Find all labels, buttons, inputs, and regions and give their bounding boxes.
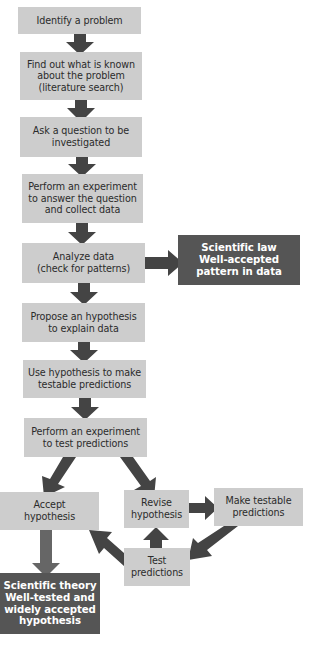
result-scientific-theory: Scientific theory Well-tested and widely… bbox=[0, 573, 100, 634]
step-label: Accept hypothesis bbox=[24, 499, 75, 522]
step-label: Ask a question to be investigated bbox=[33, 125, 129, 148]
arrow-up-icon bbox=[143, 527, 169, 548]
step-label: Use hypothesis to make testable predicti… bbox=[28, 367, 141, 390]
arrow-down-icon bbox=[68, 223, 96, 245]
arrow-down-left-icon bbox=[188, 526, 238, 560]
arrow-up-left-icon bbox=[89, 530, 124, 566]
step-test-predictions: Test predictions bbox=[124, 548, 190, 586]
step-label: Revise hypothesis bbox=[131, 497, 182, 520]
step-label: Perform an experiment to test prediction… bbox=[31, 426, 140, 449]
step-label: Find out what is known about the problem… bbox=[27, 59, 135, 94]
step-label: Perform an experiment to answer the ques… bbox=[28, 181, 137, 216]
step-ask-question: Ask a question to be investigated bbox=[20, 117, 142, 157]
result-scientific-law: Scientific law Well-accepted pattern in … bbox=[178, 235, 300, 285]
step-perform-experiment-test: Perform an experiment to test prediction… bbox=[24, 418, 147, 457]
arrow-shaft bbox=[40, 530, 52, 564]
step-analyze-data: Analyze data (check for patterns) bbox=[22, 243, 145, 283]
result-label: Scientific theory Well-tested and widely… bbox=[4, 580, 97, 627]
step-accept-hypothesis: Accept hypothesis bbox=[0, 492, 99, 530]
arrow-down-left-icon bbox=[42, 457, 76, 497]
arrow-down-icon bbox=[71, 398, 99, 420]
step-label: Make testable predictions bbox=[226, 495, 292, 518]
step-make-testable-predictions: Make testable predictions bbox=[214, 488, 303, 526]
step-propose-hypothesis: Propose an hypothesis to explain data bbox=[22, 303, 145, 342]
step-label: Analyze data (check for patterns) bbox=[37, 251, 130, 274]
step-perform-experiment-collect: Perform an experiment to answer the ques… bbox=[22, 174, 143, 223]
step-revise-hypothesis: Revise hypothesis bbox=[124, 490, 189, 528]
arrow-down-icon bbox=[70, 283, 98, 305]
step-label: Test predictions bbox=[131, 555, 183, 578]
result-label: Scientific law Well-accepted pattern in … bbox=[196, 242, 281, 277]
step-identify-problem: Identify a problem bbox=[18, 7, 141, 34]
step-label: Identify a problem bbox=[36, 15, 122, 27]
step-find-out-known: Find out what is known about the problem… bbox=[20, 52, 142, 100]
step-label: Propose an hypothesis to explain data bbox=[30, 311, 136, 334]
step-use-hypothesis: Use hypothesis to make testable predicti… bbox=[23, 360, 146, 398]
